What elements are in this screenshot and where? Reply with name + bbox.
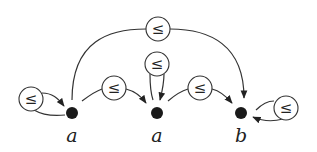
edge-label: ≤ bbox=[108, 79, 121, 97]
edge-label: ≤ bbox=[280, 99, 293, 117]
node-label: a bbox=[151, 124, 162, 146]
edge-n1-self: ≤ bbox=[19, 87, 65, 115]
edge-label: ≤ bbox=[25, 90, 38, 108]
node-label: a bbox=[66, 124, 77, 146]
node-n1: a bbox=[66, 107, 78, 146]
edge-label: ≤ bbox=[152, 20, 165, 38]
edge-n1-n2: ≤ bbox=[82, 76, 146, 103]
edge-n2-n3: ≤ bbox=[168, 76, 232, 103]
graph-diagram: ≤ ≤ ≤ ≤ ≤ ≤ a a bbox=[0, 0, 317, 152]
edge-label: ≤ bbox=[194, 79, 207, 97]
edge-n2-self: ≤ bbox=[145, 52, 169, 100]
node-n2: a bbox=[151, 107, 163, 146]
edge-label: ≤ bbox=[151, 55, 164, 73]
node-label: b bbox=[235, 124, 247, 146]
edge-n3-self: ≤ bbox=[253, 96, 298, 121]
node-n3: b bbox=[235, 107, 247, 146]
